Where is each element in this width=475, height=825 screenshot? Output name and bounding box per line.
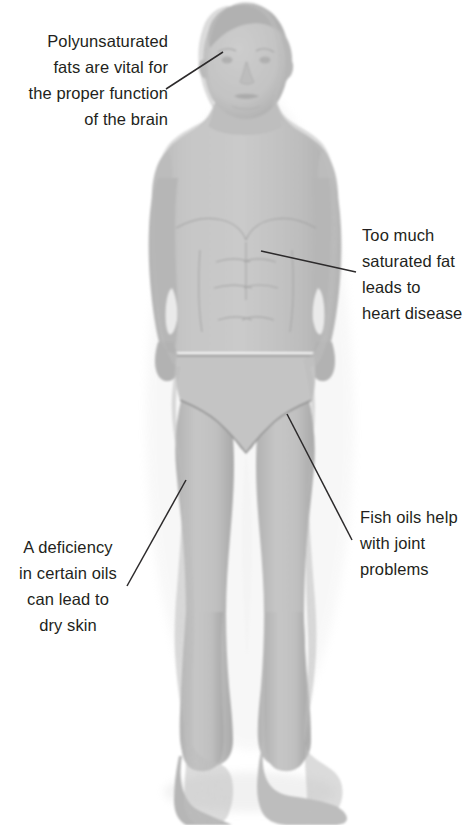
callout-brain-line-4: of the brain — [8, 106, 168, 132]
callout-saturated-fat: Too much saturated fat leads to heart di… — [362, 222, 474, 326]
callout-fish-oils-line-3: problems — [360, 556, 474, 582]
callout-dry-skin: A deficiency in certain oils can lead to… — [6, 534, 130, 638]
callout-fish-oils: Fish oils help with joint problems — [360, 504, 474, 582]
callout-dry-skin-line-4: dry skin — [6, 612, 130, 638]
callout-saturated-fat-line-2: saturated fat — [362, 248, 474, 274]
eye-right — [260, 57, 271, 64]
torso — [153, 104, 339, 352]
callout-brain: Polyunsaturated fats are vital for the p… — [8, 28, 168, 132]
callout-saturated-fat-line-1: Too much — [362, 222, 474, 248]
callout-fish-oils-line-2: with joint — [360, 530, 474, 556]
shin-right — [264, 612, 308, 771]
callout-brain-line-2: fats are vital for — [8, 54, 168, 80]
ear-right — [285, 59, 293, 78]
callout-dry-skin-line-3: can lead to — [6, 586, 130, 612]
diagram-page: Polyunsaturated fats are vital for the p… — [0, 0, 475, 825]
callout-fish-oils-line-1: Fish oils help — [360, 504, 474, 530]
callout-brain-line-1: Polyunsaturated — [8, 28, 168, 54]
callout-saturated-fat-line-3: leads to — [362, 274, 474, 300]
callout-dry-skin-line-2: in certain oils — [6, 560, 130, 586]
callout-brain-line-3: the proper function — [8, 80, 168, 106]
callout-saturated-fat-line-4: heart disease — [362, 300, 474, 326]
callout-dry-skin-line-1: A deficiency — [6, 534, 130, 560]
eye-left — [222, 57, 233, 64]
